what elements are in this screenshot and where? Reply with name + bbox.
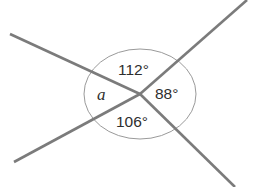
angle-label-unknown-a: a — [97, 85, 106, 104]
angles-diagram: 112° 88° 106° a — [0, 0, 253, 187]
ray-lower-right — [140, 94, 235, 187]
angle-label-bottom: 106° — [116, 113, 148, 130]
angle-label-top: 112° — [118, 61, 149, 78]
angle-label-right: 88° — [155, 85, 178, 102]
